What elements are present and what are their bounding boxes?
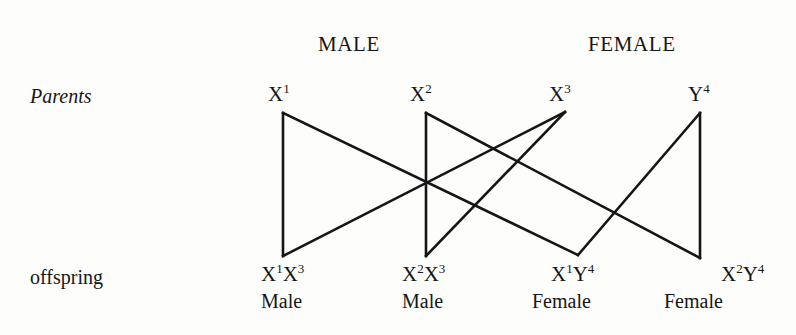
offspring-sex-o4: Female xyxy=(664,291,723,311)
offspring-genotype-x2x3: X2X3 xyxy=(402,264,445,285)
connector-lines-layer xyxy=(0,0,796,335)
group-header-female: FEMALE xyxy=(588,32,676,57)
connector-p3-to-o1 xyxy=(283,112,565,256)
connector-p1-to-o3 xyxy=(283,113,578,255)
offspring-sex-o2: Male xyxy=(402,291,443,311)
row-label-parents: Parents xyxy=(30,85,91,108)
connector-p3-to-o2 xyxy=(426,112,565,256)
parent-node-x2: X2 xyxy=(410,84,432,105)
offspring-sex-o3: Female xyxy=(532,291,591,311)
parent-node-x1: X1 xyxy=(268,84,290,105)
parent-node-y4: Y4 xyxy=(688,84,710,105)
offspring-genotype-x2y4: X2Y4 xyxy=(721,264,764,285)
offspring-genotype-x1y4: X1Y4 xyxy=(551,264,594,285)
parent-node-x3: X3 xyxy=(549,84,571,105)
inheritance-diagram: MALEFEMALE Parentsoffspring X1X2X3Y4 X1X… xyxy=(0,0,796,335)
connector-p4-to-o3 xyxy=(578,113,700,255)
connector-p2-to-o4 xyxy=(426,113,700,258)
group-header-male: MALE xyxy=(318,32,380,57)
offspring-sex-o1: Male xyxy=(261,291,302,311)
offspring-genotype-x1x3: X1X3 xyxy=(261,264,304,285)
row-label-offspring: offspring xyxy=(30,266,103,289)
